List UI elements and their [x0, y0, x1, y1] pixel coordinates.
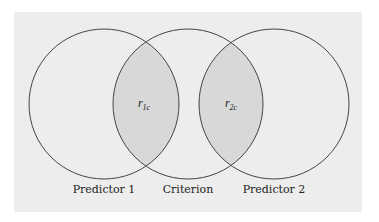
predictor-1-label: Predictor 1 — [73, 183, 136, 196]
criterion-label: Criterion — [163, 183, 214, 196]
overlap-r2c-label: r2c — [225, 96, 237, 112]
overlap-r1c-label: r1c — [138, 96, 150, 112]
predictor-2-label: Predictor 2 — [243, 183, 306, 196]
